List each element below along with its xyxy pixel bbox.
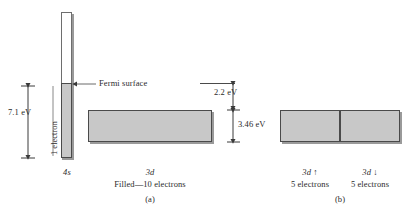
4s-band-empty-region	[61, 12, 72, 84]
energy-band-diagram-figure: 7.1 eV 1 electron Fermi surface 2.2 eV 3…	[0, 0, 410, 212]
3d-band-shadow-edge	[212, 112, 214, 144]
occupancy-label-1-electron: 1 electron	[49, 121, 59, 155]
band-occupancy-3d: Filled—10 electrons	[114, 180, 186, 190]
3d-band-rect	[88, 110, 212, 142]
4s-band-shadow-bottom	[62, 158, 74, 160]
subband-occupancy-spin-down: 5 electrons	[351, 180, 389, 190]
4s-band-filled-region	[61, 83, 72, 158]
3d-band-shadow-bottom	[90, 142, 214, 144]
fermi-level-reference-line	[200, 83, 235, 84]
gap-label-2-2-ev: 2.2 eV	[214, 88, 237, 98]
fermi-surface-label: Fermi surface	[99, 79, 147, 89]
panel-b-shadow-bottom	[282, 142, 402, 144]
3d-spin-down-box	[340, 110, 400, 142]
3d-spin-up-box	[280, 110, 340, 142]
panel-b-shadow-edge	[400, 112, 402, 144]
subband-occupancy-spin-up: 5 electrons	[291, 180, 329, 190]
panel-caption-b: (b)	[335, 195, 345, 205]
subband-label-spin-up: 3d ↑	[302, 168, 317, 178]
bandwidth-label-3-46-ev: 3.46 eV	[238, 120, 266, 130]
panel-caption-a: (a)	[145, 195, 155, 205]
subband-label-spin-down: 3d ↓	[362, 168, 377, 178]
band-label-4s: 4s	[63, 168, 71, 178]
4s-band-shadow-edge	[72, 14, 74, 160]
band-label-3d: 3d	[146, 168, 155, 178]
energy-label-7-1-ev: 7.1 eV	[8, 108, 31, 118]
